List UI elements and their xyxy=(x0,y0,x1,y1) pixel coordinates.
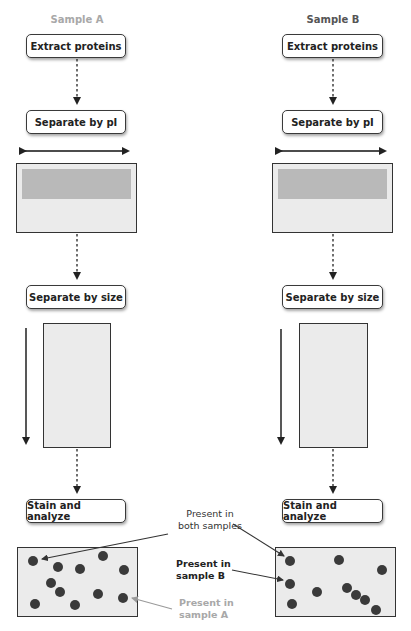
annotation-both-line1: Present in xyxy=(175,508,245,520)
annotation-b-line1: Present in xyxy=(176,558,234,570)
annotation-b-line2: sample B xyxy=(176,570,234,582)
annotation-both-line2: both samples xyxy=(175,520,245,532)
protein-spots-b xyxy=(285,555,387,615)
annotation-sample-b: Present in sample B xyxy=(176,558,234,582)
protein-spots-a xyxy=(28,551,129,610)
diagram-overlay xyxy=(0,0,411,631)
size-direction-arrows xyxy=(26,328,281,443)
annotation-a-line2: sample A xyxy=(179,609,237,621)
annotation-both-samples: Present in both samples xyxy=(175,508,245,532)
annotation-sample-a: Present in sample A xyxy=(179,597,237,621)
annotation-a-line1: Present in xyxy=(179,597,237,609)
